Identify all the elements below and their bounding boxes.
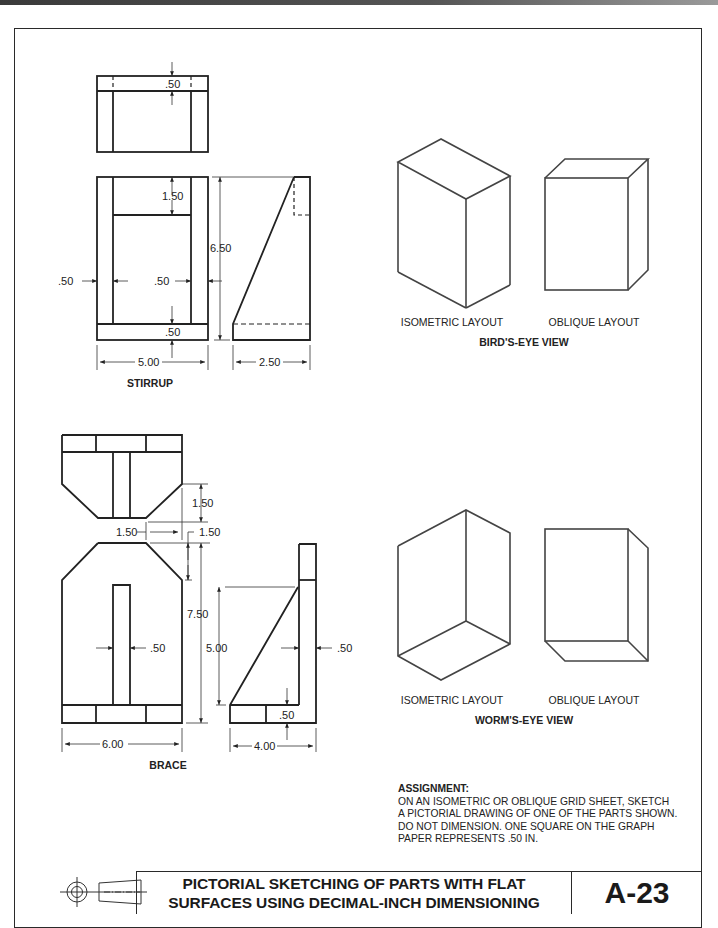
brace-label: BRACE: [149, 759, 186, 771]
sheet-title-line: PICTORIAL SKETCHING OF PARTS WITH FLAT: [183, 874, 526, 893]
dim-brace-chamfer-height: 1.50: [192, 497, 213, 509]
sheet-number: A-23: [572, 872, 702, 914]
sheet-title: PICTORIAL SKETCHING OF PARTS WITH FLAT S…: [137, 872, 572, 914]
dim-stirrup-left-wall: .50: [58, 275, 73, 287]
stirrup-label: STIRRUP: [127, 377, 173, 389]
dim-stirrup-base-thickness: .50: [165, 326, 180, 338]
stirrup-front-view: [97, 177, 208, 340]
brace-top-view: [62, 435, 182, 518]
dim-stirrup-depth: 2.50: [259, 356, 280, 368]
dim-brace-rib-thickness: .50: [150, 642, 165, 654]
stirrup-side-view: [233, 177, 310, 340]
dim-brace-depth: 4.00: [254, 740, 275, 752]
worms-eye-isometric-box: [398, 510, 510, 680]
sheet-title-line: SURFACES USING DECIMAL-INCH DIMENSIONING: [168, 893, 539, 912]
birds-eye-labels: ISOMETRIC LAYOUT OBLIQUE LAYOUT BIRD'S-E…: [401, 316, 640, 348]
dim-brace-base-thickness: .50: [279, 709, 294, 721]
worms-eye-view-title: WORM'S-EYE VIEW: [475, 714, 573, 726]
assignment-line: PAPER REPRESENTS .50 IN.: [398, 833, 698, 846]
dim-brace-chamfer-side: 1.50: [199, 526, 220, 538]
stirrup-drawing: [97, 76, 310, 340]
dim-stirrup-height: 6.50: [210, 242, 231, 254]
brace-front-view: [62, 543, 182, 723]
dim-stirrup-right-wall: .50: [154, 275, 169, 287]
dim-stirrup-top-gap: 1.50: [162, 190, 183, 202]
birds-eye-isometric-label: ISOMETRIC LAYOUT: [401, 316, 504, 328]
title-block: PICTORIAL SKETCHING OF PARTS WITH FLAT S…: [136, 871, 702, 914]
brace-side-view: [230, 544, 316, 723]
worms-eye-labels: ISOMETRIC LAYOUT OBLIQUE LAYOUT WORM'S-E…: [401, 694, 640, 726]
birds-eye-isometric-box: [398, 139, 510, 308]
brace-drawing: [62, 435, 316, 723]
assignment-line: A PICTORIAL DRAWING OF ONE OF THE PARTS …: [398, 808, 698, 821]
stirrup-top-view: [97, 76, 208, 152]
birds-eye-oblique-label: OBLIQUE LAYOUT: [549, 316, 640, 328]
third-angle-projection-icon: [60, 877, 147, 907]
worms-eye-isometric-label: ISOMETRIC LAYOUT: [401, 694, 504, 706]
birds-eye-oblique-box: [545, 159, 648, 290]
dim-brace-chamfer-width: 1.50: [116, 526, 137, 538]
assignment-block: ASSIGNMENT: ON AN ISOMETRIC OR OBLIQUE G…: [398, 783, 698, 846]
stirrup-dimension-labels: .50 1.50 6.50 .50 .50 .50 5.00 2.50 STIR…: [58, 78, 280, 389]
dim-brace-width: 6.00: [102, 738, 123, 750]
worms-eye-oblique-label: OBLIQUE LAYOUT: [549, 694, 640, 706]
assignment-line: DO NOT DIMENSION. ONE SQUARE ON THE GRAP…: [398, 821, 698, 834]
assignment-heading: ASSIGNMENT:: [398, 783, 698, 796]
dim-brace-wall-thickness: .50: [337, 642, 352, 654]
assignment-line: ON AN ISOMETRIC OR OBLIQUE GRID SHEET, S…: [398, 796, 698, 809]
dim-stirrup-width: 5.00: [138, 356, 159, 368]
worms-eye-oblique-box: [545, 529, 648, 661]
dim-stirrup-top-thickness: .50: [165, 78, 180, 90]
brace-dimension-labels: 1.50 1.50 1.50 7.50 .50 5.00 .50 .50 6.0…: [102, 497, 352, 771]
dim-brace-rib-height: 5.00: [206, 642, 227, 654]
dim-brace-height: 7.50: [187, 608, 208, 620]
birds-eye-view-title: BIRD'S-EYE VIEW: [479, 336, 569, 348]
